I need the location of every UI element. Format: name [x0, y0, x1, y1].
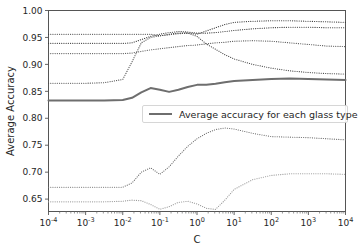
x-axis-ticks	[49, 212, 346, 216]
series-line-glass-type-3	[49, 41, 346, 54]
y-tick-label: 0.90	[22, 60, 42, 70]
y-tick-label: 0.70	[22, 167, 42, 177]
x-tick-label: 10-4	[40, 216, 58, 228]
x-tick-label: 100	[189, 216, 205, 228]
series-line-glass-type-1	[49, 21, 346, 36]
series-line-glass-type-6	[49, 174, 346, 210]
legend-label: Average accuracy for each glass type	[179, 109, 358, 120]
chart-legend[interactable]: Average accuracy for each glass type	[143, 106, 358, 123]
series-line-glass-type-4	[49, 33, 346, 83]
x-axis-title: C	[194, 234, 201, 245]
chart-figure: 0.650.700.750.800.850.900.951.00 10-410-…	[0, 0, 358, 251]
x-axis-tick-labels: 10-410-310-210-1100101102103104	[40, 216, 354, 228]
y-tick-label: 1.00	[22, 6, 42, 16]
y-tick-label: 0.85	[22, 87, 42, 97]
y-axis-tick-labels: 0.650.700.750.800.850.900.951.00	[22, 6, 42, 205]
x-tick-label: 104	[338, 216, 354, 228]
y-tick-label: 0.95	[22, 33, 42, 43]
y-axis-title: Average Accuracy	[5, 66, 16, 156]
series-line-glass-type-2	[49, 27, 346, 43]
x-tick-label: 10-1	[151, 216, 169, 228]
series-line-average-accuracy-for-each-glass-type	[49, 78, 346, 100]
y-tick-label: 0.80	[22, 113, 42, 123]
x-tick-label: 103	[301, 216, 317, 228]
x-tick-label: 10-3	[77, 216, 95, 228]
x-tick-label: 102	[263, 216, 279, 228]
series-line-glass-type-5	[49, 128, 346, 187]
x-tick-label: 10-2	[114, 216, 132, 228]
x-tick-label: 101	[226, 216, 242, 228]
y-axis-ticks	[45, 11, 49, 200]
line-chart: 0.650.700.750.800.850.900.951.00 10-410-…	[0, 0, 358, 251]
y-tick-label: 0.75	[22, 140, 42, 150]
y-tick-label: 0.65	[22, 194, 42, 204]
